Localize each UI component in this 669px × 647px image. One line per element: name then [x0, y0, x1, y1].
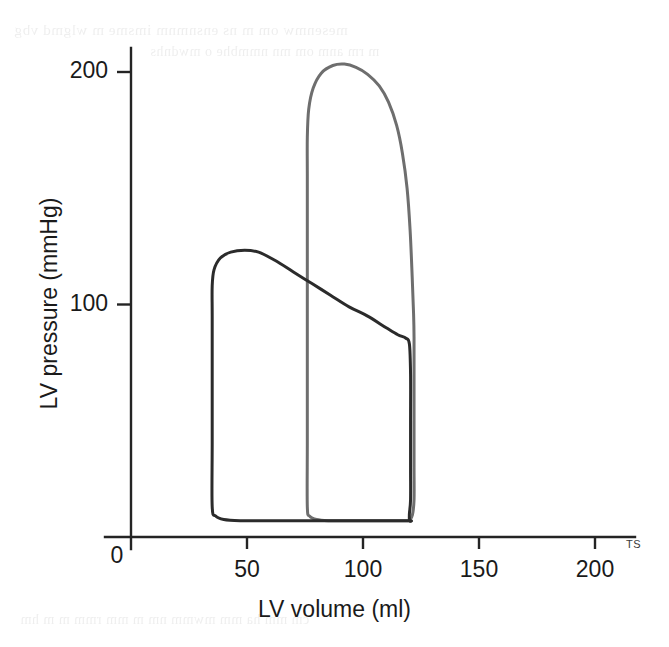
y-axis-title: LV pressure (mmHg): [36, 139, 63, 469]
axis-group: [105, 48, 635, 549]
x-tick-label: 200: [560, 556, 630, 583]
x-axis-ticks: [247, 537, 595, 549]
x-axis-title: LV volume (ml): [0, 596, 669, 623]
data-curves-group: [212, 64, 414, 521]
pv-loop-curve-increased-afterload: [212, 250, 412, 521]
ts-corner-mark: TS: [626, 538, 641, 550]
y-tick-label: 200: [38, 57, 108, 84]
y-axis-ticks: [117, 72, 131, 305]
pv-loop-figure: mesenmw om m ns ensnmnm imsme m wlgmd vb…: [0, 0, 669, 647]
x-tick-label: 50: [212, 556, 282, 583]
x-tick-label: 0: [82, 542, 152, 569]
pv-loop-curve-control: [307, 64, 414, 521]
x-tick-label: 150: [444, 556, 514, 583]
x-tick-label: 100: [328, 556, 398, 583]
